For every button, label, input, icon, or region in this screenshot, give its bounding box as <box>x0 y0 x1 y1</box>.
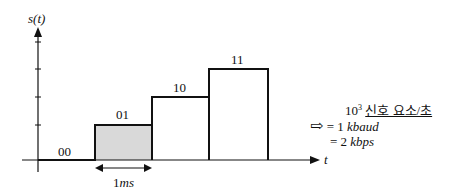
symbol-01-fill <box>95 125 152 160</box>
arrow-left-icon <box>95 164 103 172</box>
rate-annotation: 103 신호 요소/초 ⇨ = 1 kbaud = 2 kbps <box>318 100 432 149</box>
duration-label: 1ms <box>113 176 134 189</box>
symbols-per-second: 신호 요소/초 <box>365 103 432 118</box>
symbol-label-01: 01 <box>116 108 129 121</box>
arrow-right-icon <box>144 164 152 172</box>
x-axis-arrow-icon <box>310 156 320 164</box>
implies-arrow-icon: ⇨ <box>310 117 323 134</box>
y-axis-label: s(t) <box>28 12 45 25</box>
y-axis-arrow-icon <box>34 27 42 37</box>
x-axis-label: t <box>324 153 328 166</box>
signal-diagram <box>0 0 452 194</box>
symbol-label-00: 00 <box>58 145 71 158</box>
symbol-label-11: 11 <box>231 53 244 66</box>
symbol-label-10: 10 <box>173 81 186 94</box>
